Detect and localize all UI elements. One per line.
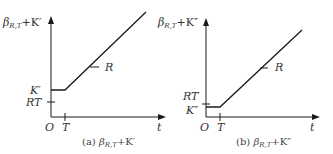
t-tick-label: T	[217, 121, 226, 134]
y-axis-label: βR,T+K″	[157, 16, 198, 30]
level-label: K″	[185, 104, 199, 117]
caption-b: (b) βR,T+K″	[236, 136, 291, 149]
t-tick-label: T	[62, 121, 71, 134]
slope-label: R	[274, 61, 283, 74]
diagram-canvas: βR,T+K′ t O T K′ RT R (a) βR,T+K′ βR,T+K…	[0, 0, 333, 154]
rt-label: RT	[25, 96, 43, 109]
slope-label: R	[104, 61, 113, 74]
rt-label: RT	[182, 90, 200, 103]
plot-line	[51, 12, 146, 90]
origin-label: O	[200, 121, 209, 134]
origin-label: O	[45, 121, 54, 134]
x-axis-label: t	[310, 121, 315, 134]
panel-a: βR,T+K′ t O T K′ RT R (a) βR,T+K′	[2, 12, 162, 149]
caption-a: (a) βR,T+K′	[82, 136, 136, 149]
x-axis-label: t	[157, 121, 162, 134]
y-axis-label: βR,T+K′	[2, 16, 42, 30]
plot-line	[206, 30, 302, 107]
panel-b: βR,T+K″ t O T K″ RT R (b) βR,T+K″	[157, 16, 316, 149]
